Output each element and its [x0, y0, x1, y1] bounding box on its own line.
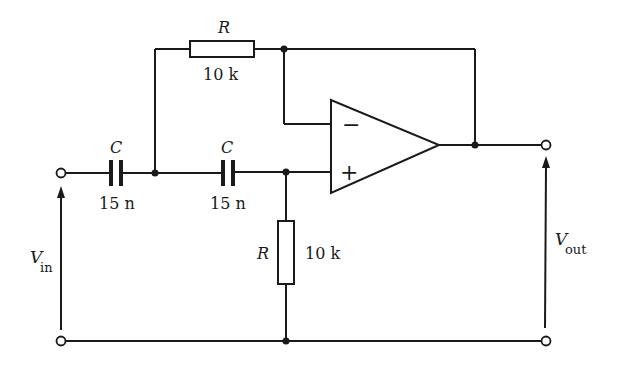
vout-subscript: out: [565, 242, 587, 257]
input-ground-terminal: [57, 337, 66, 346]
vin-subscript: in: [40, 260, 53, 275]
vout-arrowhead-icon: [542, 156, 550, 168]
c2-value: 15 n: [210, 194, 246, 213]
r-feedback-value: 10 k: [203, 65, 238, 84]
vout-arrow: [545, 166, 546, 328]
r-ground-symbol: R: [256, 244, 269, 263]
junction-dot: [281, 46, 288, 53]
output-terminal: [542, 141, 551, 150]
vin-arrowhead-icon: [57, 186, 65, 198]
r-feedback-symbol: R: [217, 18, 230, 37]
opamp-inverting-sign: −: [342, 112, 360, 137]
c1-symbol: C: [110, 138, 122, 157]
junction-dot: [152, 170, 159, 177]
opamp-noninverting-sign: +: [340, 160, 358, 185]
junction-dot: [472, 142, 479, 149]
c2-symbol: C: [221, 138, 233, 157]
junction-dot: [283, 338, 290, 345]
junction-dot: [283, 169, 290, 176]
output-ground-terminal: [542, 337, 551, 346]
r-ground-value: 10 k: [305, 244, 340, 263]
resistor-feedback: [190, 41, 254, 57]
input-terminal: [57, 169, 66, 178]
c1-value: 15 n: [99, 194, 135, 213]
circuit-diagram: − + R 10 k C 15 n C 15 n R 10 k V in V o…: [0, 0, 619, 375]
resistor-ground: [278, 221, 294, 284]
